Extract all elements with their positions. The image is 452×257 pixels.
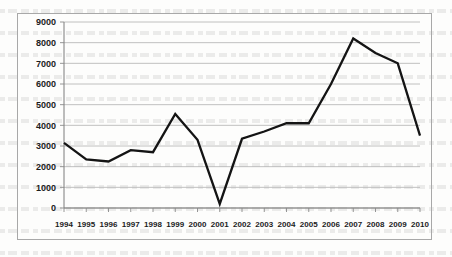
xtick-label-2003: 2003 xyxy=(255,220,273,229)
gridlines-group xyxy=(64,22,420,208)
xtick-label-2002: 2002 xyxy=(233,220,251,229)
ytick-label-1000: 1000 xyxy=(36,183,56,193)
xtick-label-1995: 1995 xyxy=(77,220,95,229)
ytick-label-9000: 9000 xyxy=(36,17,56,27)
xtick-label-2007: 2007 xyxy=(344,220,362,229)
xtick-label-2006: 2006 xyxy=(322,220,340,229)
ytick-label-5000: 5000 xyxy=(36,100,56,110)
y-axis-tick-labels: 0100020003000400050006000700080009000 xyxy=(36,17,64,213)
chart-page: 0100020003000400050006000700080009000 19… xyxy=(0,0,452,257)
x-axis-tickmarks xyxy=(64,208,420,212)
xtick-label-2005: 2005 xyxy=(300,220,318,229)
ytick-label-0: 0 xyxy=(51,203,56,213)
xtick-label-2000: 2000 xyxy=(189,220,207,229)
xtick-label-2001: 2001 xyxy=(211,220,229,229)
xtick-label-2008: 2008 xyxy=(367,220,385,229)
xtick-label-2010: 2010 xyxy=(411,220,429,229)
ytick-label-7000: 7000 xyxy=(36,59,56,69)
ytick-label-4000: 4000 xyxy=(36,121,56,131)
ytick-label-8000: 8000 xyxy=(36,38,56,48)
line-chart: 0100020003000400050006000700080009000 19… xyxy=(0,0,452,257)
xtick-label-1998: 1998 xyxy=(144,220,162,229)
x-axis-tick-labels: 1994199519961997199819992000200120022003… xyxy=(55,220,429,229)
ytick-label-3000: 3000 xyxy=(36,141,56,151)
xtick-label-2009: 2009 xyxy=(389,220,407,229)
xtick-label-1999: 1999 xyxy=(166,220,184,229)
xtick-label-1997: 1997 xyxy=(122,220,140,229)
ytick-label-6000: 6000 xyxy=(36,79,56,89)
ytick-label-2000: 2000 xyxy=(36,162,56,172)
x-axis-group xyxy=(64,208,420,212)
xtick-label-1996: 1996 xyxy=(100,220,118,229)
xtick-label-1994: 1994 xyxy=(55,220,73,229)
xtick-label-2004: 2004 xyxy=(278,220,296,229)
